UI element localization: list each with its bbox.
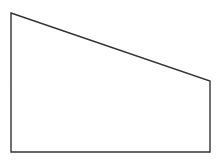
trapezoid-shape	[11, 13, 210, 152]
trapezoid-diagram	[0, 0, 220, 163]
diagram-canvas	[0, 0, 220, 163]
